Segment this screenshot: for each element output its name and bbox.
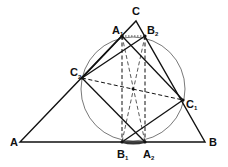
label-b2: B: [147, 24, 155, 36]
triangle-abc: [20, 21, 205, 142]
diagram-svg: C A 1 B 2 C 2 C 1 A B B 1 A 2: [0, 0, 228, 167]
label-b1: B: [117, 148, 125, 160]
label-c1: C: [186, 98, 194, 110]
label-a2-sub: 2: [151, 155, 155, 161]
label-c1-sub: 1: [194, 105, 198, 111]
label-b1-sub: 1: [125, 155, 129, 161]
point-markers: [80, 34, 184, 143]
label-c: C: [132, 5, 140, 17]
label-b: B: [209, 136, 217, 148]
label-c2: C: [70, 66, 78, 78]
label-a2: A: [143, 148, 151, 160]
label-a1: A: [112, 24, 120, 36]
geometry-diagram: C A 1 B 2 C 2 C 1 A B B 1 A 2: [0, 0, 228, 167]
label-a: A: [10, 136, 18, 148]
label-b2-sub: 2: [155, 31, 159, 37]
